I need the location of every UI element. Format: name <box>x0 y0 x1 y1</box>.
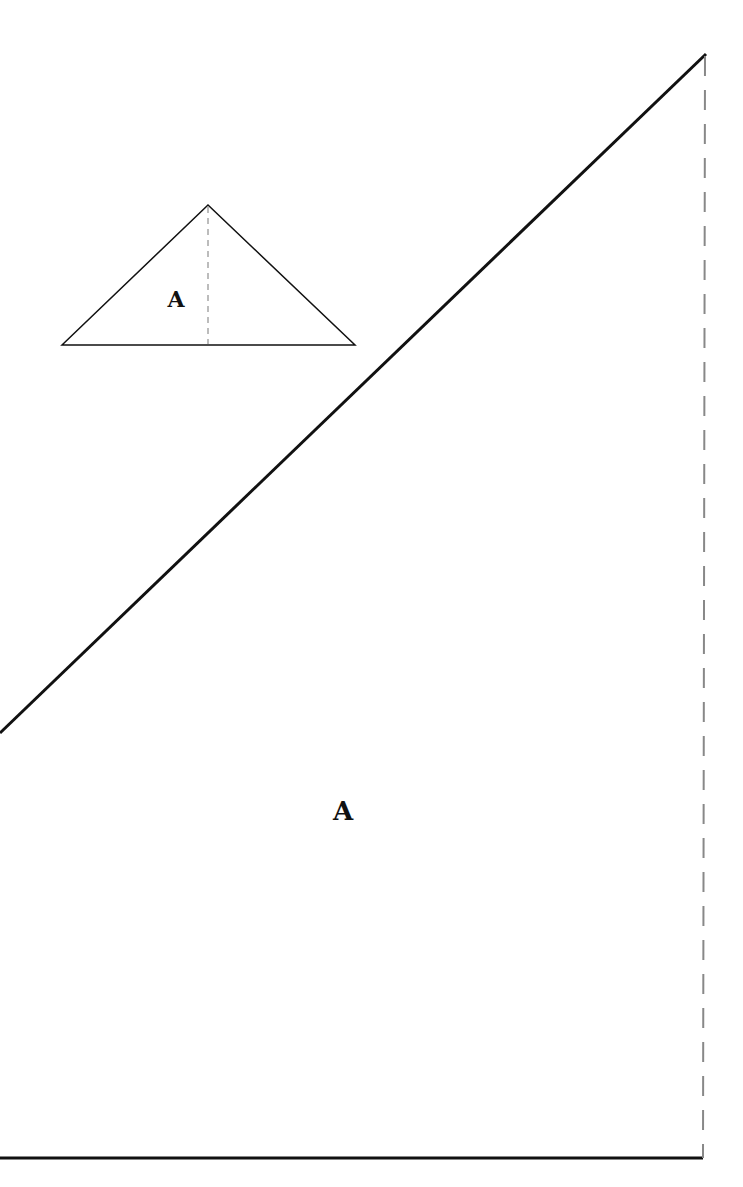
large-triangle: A <box>0 54 706 1158</box>
large-triangle-label: A <box>332 796 354 826</box>
diagram-canvas: A A <box>0 0 743 1187</box>
large-triangle-vertical-dashed <box>703 56 705 1158</box>
small-triangle-label: A <box>166 286 185 312</box>
small-triangle: A <box>62 205 355 345</box>
large-triangle-hypotenuse <box>0 54 706 733</box>
